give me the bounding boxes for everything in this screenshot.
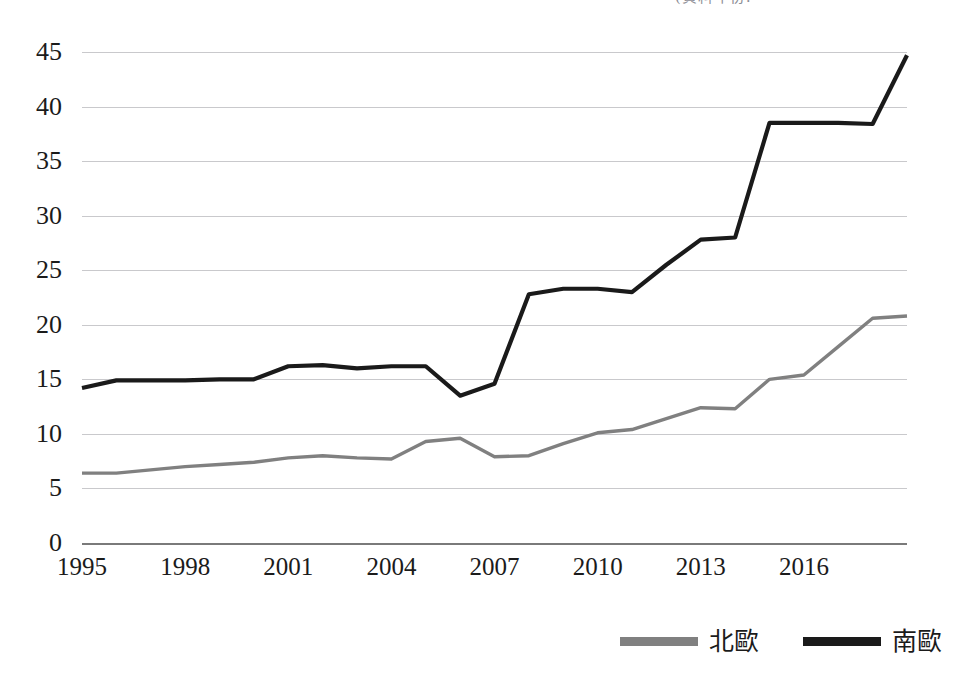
y-axis-tick-label: 25 [36, 257, 62, 283]
x-axis-tick-label: 1995 [57, 552, 107, 582]
y-axis-tick-label: 40 [36, 94, 62, 120]
x-axis-tick-label: 1998 [160, 552, 210, 582]
gridline [82, 379, 907, 380]
gridline [82, 488, 907, 489]
y-axis-tick-label: 30 [36, 203, 62, 229]
x-axis-tick-label: 2007 [470, 552, 520, 582]
chart-figure: (資料年份: 051015202530354045 19951998200120… [0, 0, 957, 684]
x-axis-tick-label: 2001 [263, 552, 313, 582]
gridline [82, 52, 907, 53]
y-axis-labels: 051015202530354045 [0, 52, 72, 543]
gridline [82, 107, 907, 108]
legend-swatch [620, 637, 698, 646]
y-axis-tick-label: 20 [36, 312, 62, 338]
gridline [82, 434, 907, 435]
y-axis-tick-label: 15 [36, 366, 62, 392]
y-axis-tick-label: 5 [49, 475, 62, 501]
y-axis-tick-label: 45 [36, 39, 62, 65]
legend-swatch [803, 637, 881, 646]
legend-item[interactable]: 北歐 [620, 629, 759, 654]
top-caption: (資料年份: [675, 0, 955, 5]
gridline [82, 161, 907, 162]
y-axis-tick-label: 10 [36, 421, 62, 447]
chart-legend: 北歐南歐 [620, 624, 942, 658]
legend-label: 南歐 [892, 629, 942, 654]
x-axis-tick-label: 2010 [573, 552, 623, 582]
gridline [82, 216, 907, 217]
x-axis-labels: 19951998200120042007201020132016 [0, 552, 957, 586]
legend-label: 北歐 [709, 629, 759, 654]
gridline [82, 270, 907, 271]
x-axis-tick-label: 2013 [676, 552, 726, 582]
plot-area [82, 52, 907, 543]
x-axis-line [82, 543, 907, 545]
gridline [82, 325, 907, 326]
legend-item[interactable]: 南歐 [803, 629, 942, 654]
x-axis-tick-label: 2016 [779, 552, 829, 582]
x-axis-tick-label: 2004 [366, 552, 416, 582]
y-axis-tick-label: 35 [36, 148, 62, 174]
